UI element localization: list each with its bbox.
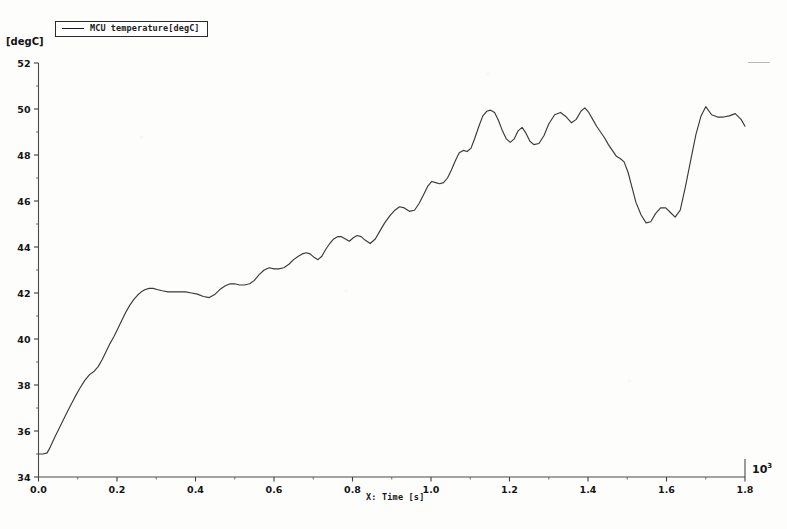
y-axis-tick-label: 46 [17,196,31,207]
x-multiplier-base: 10 [752,463,767,476]
top-right-tick-mark-icon [748,62,770,63]
y-axis-tick-label: 38 [17,380,31,391]
x-axis-tick-label: 1.8 [737,484,754,495]
y-axis-tick-label: 42 [17,288,30,299]
y-axis-tick-label: 48 [17,150,31,161]
y-axis-tick-label: 44 [17,242,31,253]
series-line-0 [39,107,746,454]
x-axis-tick-label: 0.2 [109,484,126,495]
y-axis-tick-label: 52 [17,58,30,69]
x-axis-tick-label: 1.6 [658,484,675,495]
chart-page: MCU temperature[degC] [degC] 34363840424… [0,0,787,529]
x-axis-tick-label: 0.6 [266,484,283,495]
plot-area: 34363840424446485052 0.00.20.40.60.81.01… [0,0,787,529]
data-series-group [39,107,746,454]
y-axis-tick-label: 36 [17,426,31,437]
y-axis-tick-label: 34 [17,472,31,483]
x-axis-tick-label: 1.2 [501,484,518,495]
x-axis-title: X: Time [s] [366,492,425,502]
x-axis: 0.00.20.40.60.81.01.21.41.61.8 [30,459,754,495]
y-axis-tick-label: 40 [17,334,31,345]
y-axis-tick-label: 50 [17,104,31,115]
x-axis-tick-label: 1.0 [423,484,440,495]
y-axis: 34363840424446485052 [17,58,38,483]
x-axis-tick-label: 0.8 [344,484,361,495]
x-axis-multiplier-label: 103 [752,462,772,476]
x-multiplier-exponent: 3 [767,462,772,470]
x-axis-tick-label: 1.4 [580,484,597,495]
x-axis-tick-label: 0.0 [30,484,47,495]
x-axis-tick-label: 0.4 [187,484,204,495]
